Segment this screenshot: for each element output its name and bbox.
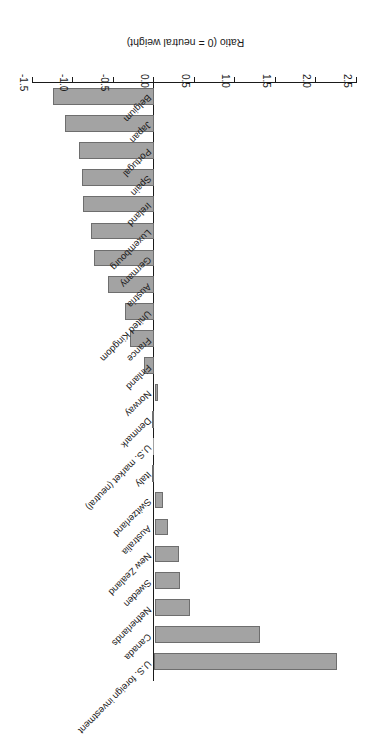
bar[interactable] <box>155 492 164 509</box>
axis-tick <box>194 77 195 83</box>
axis-tick <box>316 77 317 83</box>
axis-tick <box>275 77 276 83</box>
axis-tick-label: 1.5 <box>261 74 272 88</box>
axis-tick-label: -1.5 <box>18 74 29 91</box>
axis-tick-label: 2.0 <box>302 74 313 88</box>
bar-row <box>33 411 357 428</box>
axis-tick-label: -0.5 <box>99 74 110 91</box>
bar-row <box>33 465 357 482</box>
axis-tick <box>356 77 357 83</box>
bar-row <box>33 142 357 159</box>
bar[interactable] <box>153 411 155 428</box>
axis-tick-label: 0.5 <box>180 74 191 88</box>
bar[interactable] <box>155 384 158 401</box>
bar[interactable] <box>155 573 181 590</box>
bar[interactable] <box>153 465 155 482</box>
bar-row <box>33 169 357 186</box>
axis-tick <box>73 77 74 83</box>
bar-row <box>33 384 357 401</box>
axis-tick <box>113 77 114 83</box>
bar[interactable] <box>155 626 260 643</box>
bar-row <box>33 626 357 643</box>
bar-row <box>33 250 357 267</box>
axis-tick-label: 0.0 <box>140 74 151 88</box>
bar-row <box>33 546 357 563</box>
bar-row <box>33 438 357 455</box>
plot-area: U.S. foreign investmentCanadaNetherlands… <box>33 83 357 675</box>
bar-row <box>33 492 357 509</box>
axis-tick <box>32 77 33 83</box>
bar-row <box>33 303 357 320</box>
axis-title: Ratio (0 = neutral weight) <box>0 37 371 49</box>
bar-row <box>33 357 357 374</box>
bar[interactable] <box>155 546 179 563</box>
axis-tick <box>154 77 155 83</box>
bar-row <box>33 330 357 347</box>
bar-row <box>33 519 357 536</box>
axis-tick-label: 2.5 <box>342 74 353 88</box>
bar-row <box>33 196 357 213</box>
bar[interactable] <box>155 599 191 616</box>
bar[interactable] <box>155 653 337 670</box>
axis-tick <box>235 77 236 83</box>
bar[interactable] <box>155 519 169 536</box>
axis-tick-label: -1.0 <box>59 74 70 91</box>
bar-row <box>33 599 357 616</box>
bar-row <box>33 115 357 132</box>
bar[interactable] <box>154 438 155 455</box>
bar-row <box>33 223 357 240</box>
value-axis-line: 2.52.01.51.00.50.0-0.5-1.0-1.5 <box>33 82 357 83</box>
bar-row <box>33 88 357 105</box>
bar-row <box>33 653 357 670</box>
bar-row <box>33 573 357 590</box>
bar-row <box>33 277 357 294</box>
axis-tick-label: 1.0 <box>221 74 232 88</box>
